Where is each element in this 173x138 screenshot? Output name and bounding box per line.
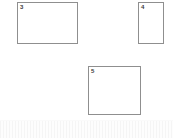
page-box-4[interactable]: 4 (138, 2, 164, 44)
page-layout-canvas: 3 4 5 (0, 0, 173, 138)
page-box-3[interactable]: 3 (17, 2, 78, 44)
page-box-5-label: 5 (91, 68, 94, 75)
page-box-4-label: 4 (141, 4, 144, 11)
page-box-3-label: 3 (20, 4, 23, 11)
page-box-5[interactable]: 5 (88, 66, 141, 115)
bottom-striped-band (0, 121, 173, 138)
